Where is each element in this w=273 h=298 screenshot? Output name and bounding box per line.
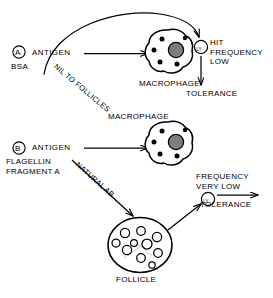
- macrophage-a-granule: [158, 60, 163, 65]
- follicle-lymphocyte: [112, 239, 120, 247]
- panel-a-lymphocyte-label: LY: [196, 45, 201, 54]
- follicle-lymphocyte: [142, 239, 152, 249]
- panel-b-antigen-label: ANTIGEN: [32, 143, 70, 152]
- macrophage-a-granule: [152, 48, 157, 53]
- macrophage-b-granule: [160, 129, 165, 134]
- macrophage-a-granule: [183, 36, 187, 40]
- panel-b-follicle-label: FOLLICLE: [116, 275, 156, 284]
- follicle-lymphocyte: [149, 262, 155, 268]
- follicle-lymphocyte: [137, 254, 146, 263]
- panel-b-outcome-label: FREQUENCY VERY LOW: [196, 172, 249, 191]
- follicle-lymphocyte: [152, 232, 161, 241]
- panel-b-tag-label: B: [15, 144, 21, 153]
- panel-a-antigen-label: ANTIGEN: [32, 48, 70, 57]
- panel-b-antigen-name: FLAGELLIN FRAGMENT A: [6, 157, 60, 176]
- panel-b-tolerance-label: TOLERANCE: [200, 200, 251, 209]
- follicle-lymphocyte: [154, 249, 163, 258]
- follicle-lymphocyte: [131, 240, 138, 247]
- diagram-canvas: A ANTIGEN BSA NIL TO FOLLICLES MACROPHAG…: [0, 0, 273, 298]
- macrophage-b-granule: [152, 140, 157, 145]
- panel-a-tolerance-label: TOLERANCE: [186, 89, 237, 98]
- arrow-b-follicle-to-lymphocyte: [168, 204, 201, 230]
- macrophage-a-granule: [175, 62, 180, 67]
- macrophage-b-granule: [183, 128, 187, 132]
- panel-a-tag-label: A: [15, 48, 21, 57]
- follicle-lymphocyte: [120, 228, 129, 237]
- follicle-lymphocyte: [122, 245, 131, 254]
- panel-a-antigen-name: BSA: [11, 62, 28, 71]
- macrophage-a-nucleus: [168, 42, 183, 57]
- panel-a-outcome-label: HIT FREQUENCY LOW: [210, 38, 263, 67]
- panel-b-macrophage-label: MACROPHAGE: [108, 112, 169, 121]
- panel-a-macrophage-label: MACROPHAGE: [139, 79, 200, 88]
- macrophage-b-granule: [158, 152, 163, 157]
- macrophage-b-nucleus: [168, 134, 183, 149]
- macrophage-b-granule: [175, 154, 180, 159]
- follicle-lymphocyte: [137, 227, 146, 236]
- macrophage-a-granule: [160, 37, 165, 42]
